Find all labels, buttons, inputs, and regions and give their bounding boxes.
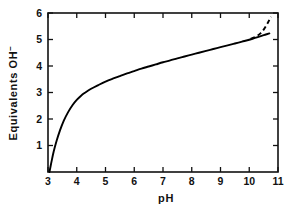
y-tick-label-3: 3 <box>36 86 42 98</box>
chart-canvas: 34567891011 123456 pH Equivalents OH− <box>0 0 303 212</box>
y-tick-label-5: 5 <box>36 33 42 45</box>
x-tick-label-10: 10 <box>243 175 255 187</box>
x-tick-label-6: 6 <box>131 175 137 187</box>
y-axis-title-group: Equivalents OH− <box>6 46 19 141</box>
x-axis-tick-labels: 34567891011 <box>45 175 284 187</box>
y-axis-title-superscript: − <box>6 46 15 51</box>
y-tick-label-2: 2 <box>36 113 42 125</box>
y-tick-label-6: 6 <box>36 7 42 19</box>
x-tick-label-3: 3 <box>45 175 51 187</box>
y-tick-label-4: 4 <box>36 60 42 72</box>
x-tick-label-8: 8 <box>189 175 195 187</box>
y-tick-label-1: 1 <box>36 139 42 151</box>
figure-container: 34567891011 123456 pH Equivalents OH− <box>0 0 303 212</box>
y-axis-title-text: Equivalents OH <box>7 51 19 141</box>
x-tick-label-11: 11 <box>272 175 283 187</box>
titration-curve-solid <box>49 33 269 172</box>
x-axis-title: pH <box>158 192 174 204</box>
y-axis-title: Equivalents OH− <box>6 46 19 141</box>
x-tick-label-7: 7 <box>160 175 166 187</box>
x-tick-label-9: 9 <box>218 175 224 187</box>
x-tick-label-5: 5 <box>103 175 109 187</box>
plot-frame <box>48 13 278 172</box>
y-axis-tick-labels: 123456 <box>36 7 42 152</box>
x-tick-label-4: 4 <box>74 175 80 187</box>
